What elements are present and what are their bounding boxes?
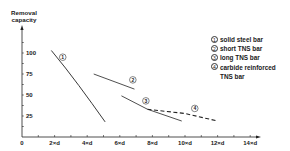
y-tick-label: 75: [26, 71, 33, 77]
x-tick-label: 0: [20, 140, 24, 146]
legend-label: carbide reinforced: [220, 63, 276, 72]
svg-text:2: 2: [131, 77, 134, 83]
series-4-marker-icon: 4: [191, 105, 198, 112]
series-2-marker-icon: 2: [130, 77, 137, 84]
svg-text:4: 4: [193, 105, 196, 111]
y-axis-arrow-icon: [20, 25, 23, 30]
series-1-marker-icon: 1: [59, 54, 66, 61]
x-tick-label: 10×d: [178, 140, 192, 146]
x-tick-label: 4×d: [82, 140, 93, 146]
circled-number-icon: 1: [211, 36, 218, 43]
legend-item-3: 3 long TNS bar: [211, 53, 276, 62]
x-tick-label: 2×d: [49, 140, 60, 146]
legend-item-4: 4 carbide reinforced: [211, 63, 276, 72]
legend-item-2: 2 short TNS bar: [211, 44, 276, 53]
x-axis-arrow-icon: [256, 135, 261, 138]
svg-text:3: 3: [144, 98, 147, 104]
x-tick-label: 6×d: [115, 140, 126, 146]
legend-label: long TNS bar: [220, 53, 260, 62]
series-2-line: [94, 74, 135, 89]
legend-item-4-continued: TNS bar: [211, 72, 276, 81]
y-tick-label: 25: [26, 113, 33, 119]
legend-item-1: 1 solid steel bar: [211, 35, 276, 44]
series-3-marker-icon: 3: [143, 98, 150, 105]
x-tick-label: 8×d: [147, 140, 158, 146]
circled-number-icon: 3: [211, 54, 218, 61]
series-markers: 1234: [59, 54, 198, 112]
circled-number-icon: 4: [211, 63, 218, 70]
series-1-line: [51, 50, 105, 121]
svg-text:1: 1: [61, 54, 64, 60]
x-tick-label: 12×d: [211, 140, 225, 146]
y-tick-label: 50: [26, 92, 33, 98]
series-3-line: [121, 96, 181, 121]
circled-number-icon: 2: [211, 45, 218, 52]
y-tick-label: 100: [26, 50, 37, 56]
legend-label: short TNS bar: [220, 44, 262, 53]
legend: 1 solid steel bar 2 short TNS bar 3 long…: [211, 35, 276, 81]
series-4-line: [148, 109, 218, 121]
x-tick-label: 14×d: [243, 140, 257, 146]
legend-label: solid steel bar: [220, 35, 263, 44]
